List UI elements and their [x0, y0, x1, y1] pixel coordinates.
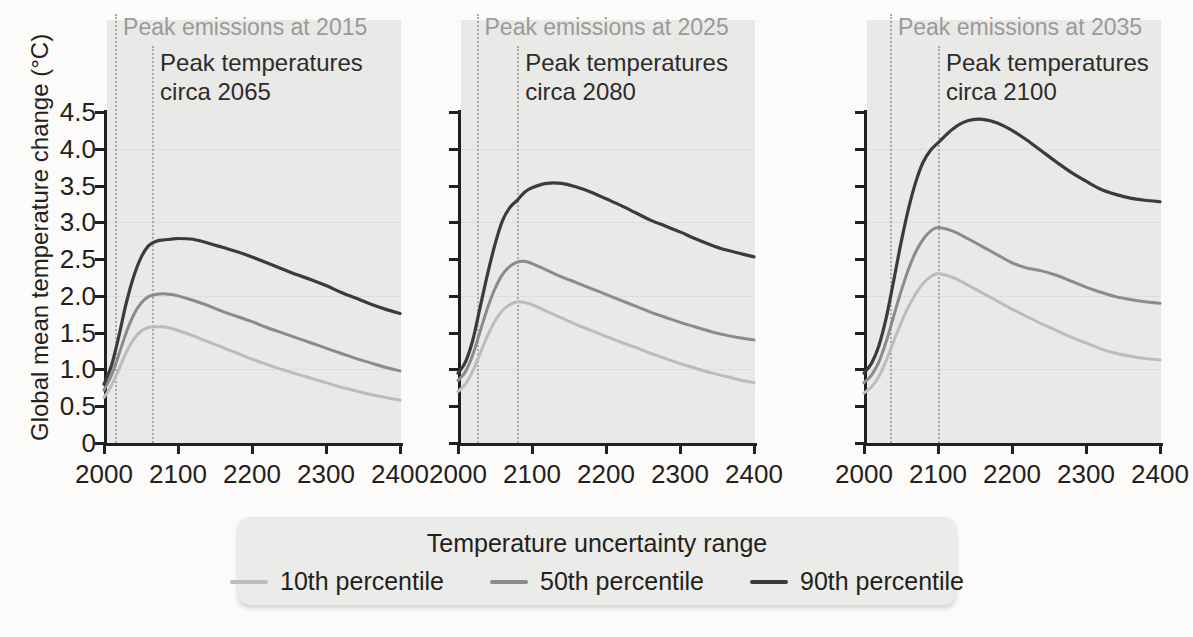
panel-3: 20002100220023002400Peak emissions at 20…	[0, 0, 1193, 500]
legend-item[interactable]: 90th percentile	[750, 567, 964, 596]
legend-items: 10th percentile50th percentile90th perce…	[238, 567, 956, 596]
figure-root: Global mean temperature change (°C) 4.54…	[0, 0, 1193, 637]
legend-item-label: 50th percentile	[540, 567, 704, 596]
legend-item-label: 10th percentile	[280, 567, 444, 596]
series-line-90th-percentile	[864, 119, 1160, 373]
legend-line-swatch	[750, 580, 788, 584]
series-layer	[0, 0, 1193, 500]
legend-line-swatch	[490, 580, 528, 584]
legend-title: Temperature uncertainty range	[238, 529, 956, 558]
legend-line-swatch	[230, 580, 268, 584]
legend-item[interactable]: 50th percentile	[490, 567, 704, 596]
legend-item[interactable]: 10th percentile	[230, 567, 444, 596]
legend: Temperature uncertainty range 10th perce…	[238, 517, 956, 605]
series-line-10th-percentile	[864, 274, 1160, 393]
legend-item-label: 90th percentile	[800, 567, 964, 596]
